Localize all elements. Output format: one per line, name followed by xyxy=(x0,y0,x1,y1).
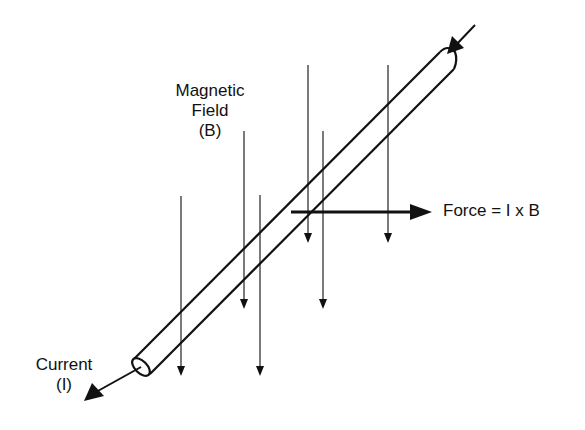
label-line: Magnetic xyxy=(160,81,260,101)
current-label: Current (I) xyxy=(14,355,114,395)
force-label: Force = I x B xyxy=(443,201,540,221)
force-arrow xyxy=(291,204,432,220)
label-line: (I) xyxy=(14,375,114,395)
label-line: Field xyxy=(160,101,260,121)
current-in-arrow xyxy=(447,25,475,54)
magnetic-field-label: Magnetic Field (B) xyxy=(160,81,260,141)
label-line: (B) xyxy=(160,121,260,141)
diagram-canvas: Magnetic Field (B) Force = I x B Current… xyxy=(0,0,585,430)
label-line: Current xyxy=(14,355,114,375)
